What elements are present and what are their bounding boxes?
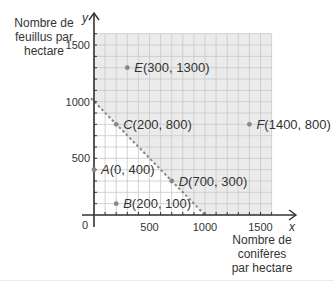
x-axis-title-line: Nombre de [224,233,300,247]
data-point [247,122,252,127]
data-point [92,167,97,172]
y-tick-label: 500 [72,152,90,164]
x-axis-title: Nombre de conifères par hectare [224,233,300,275]
point-label: F(1400, 800) [256,117,330,132]
data-point [114,201,119,206]
point-label: D(700, 300) [179,174,248,189]
data-point [114,122,119,127]
data-point [169,179,174,184]
x-axis-title-line: conifères [224,247,300,261]
y-tick-label: 1000 [66,96,90,108]
x-axis-symbol: x [288,220,296,234]
y-axis-title: Nombre de feuillus par hectare [8,16,80,58]
y-axis-title-line: feuillus par [8,30,80,44]
bottom-separator [0,280,334,281]
point-label: B(200, 100) [123,196,191,211]
point-label: C(200, 800) [123,117,192,132]
y-axis-title-line: hectare [8,44,80,58]
y-axis-title-line: Nombre de [8,16,80,30]
origin-label: 0 [82,219,88,231]
x-tick-label: 1000 [193,221,217,233]
x-tick-label: 1500 [248,221,272,233]
y-axis-symbol: y [81,11,89,25]
point-label: E(300, 1300) [134,60,209,75]
x-tick-label: 500 [140,221,158,233]
x-axis-title-line: par hectare [224,261,300,275]
data-point [125,65,130,70]
point-label: A(0, 400) [100,162,154,177]
